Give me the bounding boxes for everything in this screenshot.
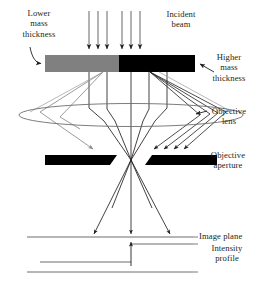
label-objective-aperture: Objective aperture (198, 150, 258, 171)
label-lower-mass-thickness: Lower mass thickness (6, 8, 72, 39)
lower-mass-thickness-leader-arrow (30, 47, 41, 64)
incident-beam-rays (89, 11, 140, 49)
scattered-rays-low-mass-thickness (40, 72, 103, 149)
transmitted-ray-cone (89, 72, 170, 234)
specimen-high-mass-thickness-segment (119, 55, 195, 72)
label-incident-beam: Incident beam (150, 9, 212, 30)
specimen-low-mass-thickness-segment (45, 55, 119, 72)
label-intensity-profile: Intensity profile (199, 243, 255, 264)
label-higher-mass-thickness: Higher mass thickness (200, 52, 258, 83)
intensity-profile-trace (27, 242, 193, 272)
bottom-label-leaders (193, 237, 198, 272)
specimen-bar (45, 55, 195, 72)
objective-aperture-left-blade (45, 155, 117, 165)
label-objective-lens: Objective lens (200, 106, 258, 127)
label-image-plane: Image plane (199, 231, 259, 241)
mass-thickness-contrast-diagram: Lower mass thickness Incident beam Highe… (0, 0, 260, 281)
